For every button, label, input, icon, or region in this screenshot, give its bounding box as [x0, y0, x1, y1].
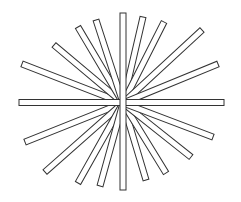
starburst-bars	[0, 0, 241, 202]
bar-vertical	[120, 13, 126, 190]
starburst-diagram	[0, 0, 241, 202]
bars-layer	[19, 13, 224, 190]
